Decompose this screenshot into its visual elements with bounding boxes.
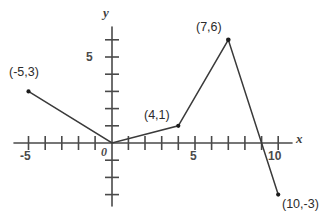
point-annotation-10-neg3: (10,-3)	[282, 197, 319, 211]
y-tick-label-5: 5	[86, 50, 93, 64]
data-point-7-6	[226, 38, 231, 43]
x-tick-label-neg5: -5	[20, 149, 31, 163]
x-axis-label: x	[296, 131, 303, 147]
graph-figure: y x 0 -5 5 10 5 (-5,3) (4,1) (7,6) (10,-…	[0, 0, 332, 223]
x-tick-label-10: 10	[268, 149, 281, 163]
data-point-neg5-3	[26, 89, 30, 93]
origin-label: 0	[101, 145, 107, 160]
point-annotation-7-6: (7,6)	[196, 20, 222, 34]
data-point-4-1	[176, 124, 180, 128]
y-axis-label: y	[103, 5, 109, 21]
x-tick-label-5: 5	[190, 149, 197, 163]
data-point-10-neg3	[276, 193, 280, 197]
point-annotation-neg5-3: (-5,3)	[9, 65, 39, 79]
point-annotation-4-1: (4,1)	[144, 108, 170, 122]
